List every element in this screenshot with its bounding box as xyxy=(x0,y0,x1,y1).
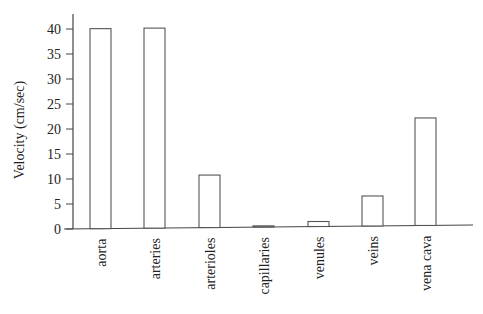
y-tick-label: 0 xyxy=(54,222,61,237)
y-tick-label: 10 xyxy=(47,172,61,187)
y-tick-label: 5 xyxy=(54,197,61,212)
bar-venules xyxy=(308,222,329,227)
bar-capillaries xyxy=(253,226,274,227)
y-tick-label: 30 xyxy=(47,72,61,87)
bar-vena-cava xyxy=(415,118,436,225)
y-axis: 0510152025303540 xyxy=(47,14,73,237)
velocity-bar-chart: 0510152025303540 aortaarteriesarterioles… xyxy=(0,0,483,314)
category-label: arterioles xyxy=(203,238,218,290)
bar-aorta xyxy=(90,29,111,229)
category-label: venules xyxy=(312,237,327,280)
y-tick-label: 15 xyxy=(47,147,61,162)
y-tick-label: 25 xyxy=(47,97,61,112)
category-labels: aortaarteriesarteriolescapillariesvenule… xyxy=(94,235,434,295)
category-label: veins xyxy=(366,236,381,266)
category-label: vena cava xyxy=(419,235,434,291)
bars xyxy=(90,28,436,229)
category-label: aorta xyxy=(94,238,109,267)
bar-veins xyxy=(362,196,383,226)
bar-arteries xyxy=(144,28,165,228)
y-tick-label: 35 xyxy=(47,47,61,62)
category-label: arteries xyxy=(148,238,163,279)
bar-arterioles xyxy=(199,175,220,228)
y-axis-title: Velocity (cm/sec) xyxy=(12,80,28,179)
category-label: capillaries xyxy=(257,237,272,295)
y-tick-label: 20 xyxy=(47,122,61,137)
y-tick-label: 40 xyxy=(47,22,61,37)
